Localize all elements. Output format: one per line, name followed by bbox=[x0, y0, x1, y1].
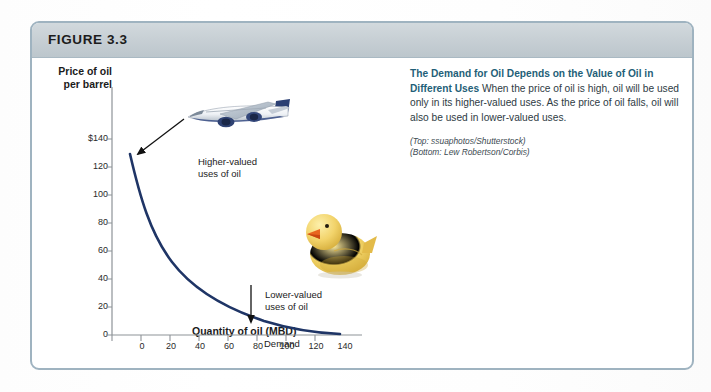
page-background: FIGURE 3.3 Price of oil per barrel Quant… bbox=[0, 0, 711, 392]
annotation-higher-valued: Higher-valued uses of oil bbox=[198, 156, 257, 179]
chart-area: Price of oil per barrel Quantity of oil … bbox=[32, 57, 412, 370]
demand-curve-label: Demand bbox=[264, 338, 300, 350]
photo-credits: (Top: ssuaphotos/Shutterstock) (Bottom: … bbox=[410, 136, 686, 158]
annotation-higher-valued-line2: uses of oil bbox=[198, 168, 241, 179]
higher-valued-arrow bbox=[138, 119, 184, 154]
rubber-duck-photo bbox=[298, 205, 380, 283]
credit-top: (Top: ssuaphotos/Shutterstock) bbox=[410, 136, 686, 147]
annotation-lower-valued-line1: Lower-valued bbox=[265, 289, 322, 300]
y-tick-marks bbox=[106, 139, 112, 335]
caption-text: The Demand for Oil Depends on the Value … bbox=[410, 67, 686, 125]
caption-panel: The Demand for Oil Depends on the Value … bbox=[410, 67, 686, 158]
credit-bottom: (Bottom: Lew Robertson/Corbis) bbox=[410, 147, 686, 158]
airplane-photo bbox=[180, 97, 292, 139]
figure-card: FIGURE 3.3 Price of oil per barrel Quant… bbox=[30, 21, 694, 370]
figure-header-band: FIGURE 3.3 bbox=[32, 23, 692, 58]
figure-number-label: FIGURE 3.3 bbox=[48, 32, 128, 47]
annotation-lower-valued-line2: uses of oil bbox=[265, 301, 308, 312]
annotation-higher-valued-line1: Higher-valued bbox=[198, 156, 257, 167]
annotation-lower-valued: Lower-valued uses of oil bbox=[265, 289, 322, 312]
